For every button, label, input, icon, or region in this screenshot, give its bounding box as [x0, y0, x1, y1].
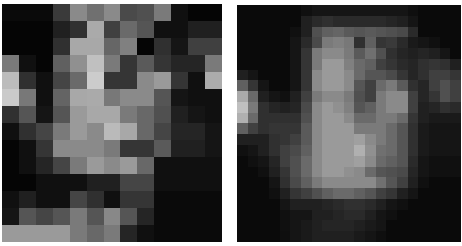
pixel-cell — [386, 16, 397, 27]
pixel-cell — [53, 55, 70, 72]
pixel-cell — [290, 177, 301, 188]
pixel-cell — [171, 157, 188, 174]
pixel-cell — [429, 134, 440, 145]
pixel-cell — [418, 27, 429, 38]
pixel-cell — [154, 191, 171, 208]
pixel-cell — [450, 231, 461, 242]
pixel-cell — [322, 70, 333, 81]
pixel-cell — [137, 89, 154, 106]
pixel-cell — [365, 113, 376, 124]
pixel-cell — [418, 220, 429, 231]
pixel-cell — [205, 123, 222, 140]
pixel-cell — [376, 188, 387, 199]
pixel-cell — [19, 21, 36, 38]
pixel-cell — [322, 177, 333, 188]
pixel-cell — [237, 59, 248, 70]
pixel-cell — [280, 16, 291, 27]
pixel-cell — [397, 80, 408, 91]
pixel-cell — [440, 48, 451, 59]
pixel-cell — [397, 156, 408, 167]
pixel-cell — [137, 55, 154, 72]
pixel-cell — [344, 145, 355, 156]
pixel-cell — [280, 80, 291, 91]
pixel-cell — [386, 134, 397, 145]
pixel-cell — [205, 174, 222, 191]
pixel-cell — [154, 157, 171, 174]
pixel-cell — [386, 80, 397, 91]
pixel-cell — [70, 38, 87, 55]
pixel-cell — [280, 91, 291, 102]
pixel-cell — [269, 145, 280, 156]
pixel-cell — [344, 199, 355, 210]
pixel-cell — [301, 210, 312, 221]
pixel-cell — [365, 156, 376, 167]
pixel-cell — [301, 59, 312, 70]
pixel-cell — [53, 140, 70, 157]
pixel-cell — [53, 89, 70, 106]
pixel-cell — [104, 140, 121, 157]
pixel-cell — [397, 27, 408, 38]
pixel-cell — [322, 91, 333, 102]
pixel-cell — [354, 167, 365, 178]
pixel-cell — [450, 37, 461, 48]
pixel-cell — [408, 188, 419, 199]
pixel-cell — [354, 210, 365, 221]
pixel-cell — [397, 48, 408, 59]
pixel-cell — [322, 188, 333, 199]
pixel-cell — [205, 140, 222, 157]
pixel-cell — [333, 37, 344, 48]
pixel-cell — [120, 4, 137, 21]
pixel-cell — [120, 157, 137, 174]
pixel-cell — [290, 91, 301, 102]
pixel-cell — [171, 72, 188, 89]
pixel-cell — [70, 174, 87, 191]
pixel-cell — [365, 167, 376, 178]
pixel-cell — [137, 208, 154, 225]
pixel-cell — [171, 38, 188, 55]
pixel-cell — [301, 27, 312, 38]
pixel-cell — [376, 27, 387, 38]
pixel-cell — [301, 188, 312, 199]
pixel-cell — [376, 5, 387, 16]
pixel-cell — [376, 70, 387, 81]
pixel-cell — [248, 210, 259, 221]
pixel-cell — [333, 91, 344, 102]
pixel-cell — [171, 174, 188, 191]
pixel-cell — [188, 157, 205, 174]
pixel-cell — [280, 177, 291, 188]
pixel-cell — [87, 225, 104, 242]
pixel-cell — [258, 27, 269, 38]
pixel-cell — [248, 177, 259, 188]
pixel-cell — [376, 37, 387, 48]
pixel-cell — [312, 210, 323, 221]
pixel-cell — [87, 208, 104, 225]
pixel-cell — [333, 220, 344, 231]
pixel-cell — [408, 113, 419, 124]
pixel-cell — [237, 145, 248, 156]
pixel-cell — [408, 37, 419, 48]
pixel-cell — [354, 5, 365, 16]
pixel-cell — [397, 145, 408, 156]
pixel-cell — [87, 72, 104, 89]
pixel-cell — [171, 106, 188, 123]
pixel-cell — [312, 123, 323, 134]
pixel-cell — [386, 37, 397, 48]
pixel-cell — [376, 102, 387, 113]
pixel-cell — [154, 225, 171, 242]
pixel-cell — [312, 27, 323, 38]
pixel-cell — [344, 167, 355, 178]
pixel-cell — [258, 156, 269, 167]
pixel-cell — [440, 113, 451, 124]
pixel-cell — [333, 167, 344, 178]
pixel-cell — [354, 220, 365, 231]
pixel-cell — [397, 113, 408, 124]
pixel-cell — [301, 80, 312, 91]
pixel-cell — [269, 210, 280, 221]
pixel-cell — [205, 4, 222, 21]
pixel-cell — [322, 59, 333, 70]
pixel-cell — [280, 134, 291, 145]
pixel-cell — [2, 106, 19, 123]
pixel-cell — [290, 167, 301, 178]
pixel-cell — [386, 199, 397, 210]
pixel-cell — [269, 167, 280, 178]
